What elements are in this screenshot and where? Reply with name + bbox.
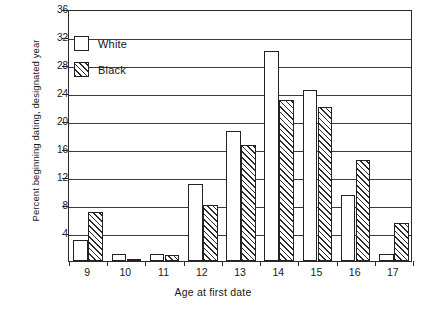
bar-black-age-14 bbox=[279, 100, 294, 261]
x-axis-tick-label-14: 14 bbox=[258, 266, 298, 278]
legend-swatch-white-icon bbox=[74, 36, 89, 51]
bar-white-age-11 bbox=[150, 254, 165, 261]
bar-black-age-16 bbox=[356, 160, 371, 262]
bar-white-age-16 bbox=[341, 195, 356, 262]
x-axis-tick-label-9: 9 bbox=[67, 266, 107, 278]
bar-black-age-13 bbox=[241, 145, 256, 261]
bar-black-age-15 bbox=[318, 107, 333, 261]
legend-item-black: Black bbox=[74, 59, 194, 80]
bar-black-age-10 bbox=[127, 259, 142, 261]
x-axis-tick-label-12: 12 bbox=[182, 266, 222, 278]
bar-white-age-9 bbox=[73, 240, 88, 261]
legend-label-white: White bbox=[98, 38, 127, 50]
legend-item-white: White bbox=[74, 33, 194, 54]
x-axis-tick-label-10: 10 bbox=[105, 266, 145, 278]
x-axis-tick-label-17: 17 bbox=[373, 266, 413, 278]
bar-white-age-10 bbox=[112, 254, 127, 261]
legend-swatch-black-icon bbox=[74, 62, 89, 77]
bar-white-age-12 bbox=[188, 184, 203, 261]
bar-white-age-17 bbox=[379, 254, 394, 261]
bar-black-age-11 bbox=[165, 255, 180, 261]
bar-white-age-13 bbox=[226, 131, 241, 261]
bar-black-age-17 bbox=[394, 223, 409, 262]
x-axis-title: Age at first date bbox=[0, 286, 426, 298]
x-axis-tick-label-16: 16 bbox=[335, 266, 375, 278]
y-axis: 4812162024283236 bbox=[0, 0, 68, 310]
bar-chart: Percent beginning dating, designated yea… bbox=[0, 0, 426, 310]
legend: White Black bbox=[74, 33, 194, 85]
bar-white-age-15 bbox=[303, 90, 318, 262]
legend-label-black: Black bbox=[98, 64, 126, 76]
x-axis-tick-label-15: 15 bbox=[296, 266, 336, 278]
x-axis-tick-label-13: 13 bbox=[220, 266, 260, 278]
bar-black-age-12 bbox=[203, 205, 218, 261]
bar-black-age-9 bbox=[88, 212, 103, 261]
x-axis-tick-label-11: 11 bbox=[144, 266, 184, 278]
bar-white-age-14 bbox=[264, 51, 279, 261]
x-axis-tick-mark bbox=[413, 261, 414, 266]
